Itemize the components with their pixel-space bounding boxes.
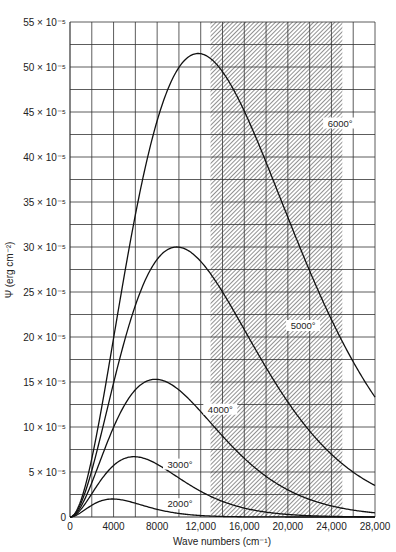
x-tick-label: 4000: [102, 521, 125, 532]
y-axis-ticks: 05 × 10⁻⁵10 × 10⁻⁵15 × 10⁻⁵20 × 10⁻⁵25 ×…: [23, 17, 66, 523]
x-tick-label: 28,000: [360, 521, 391, 532]
y-tick-label: 20 × 10⁻⁵: [23, 332, 66, 343]
x-tick-label: 8000: [146, 521, 169, 532]
x-axis-ticks: 04000800012,00016,00020,00024,00028,000: [67, 521, 391, 532]
x-axis-label: Wave numbers (cm⁻¹): [173, 536, 271, 547]
y-tick-label: 35 × 10⁻⁵: [23, 197, 66, 208]
y-axis-label: Ψ (erg cm⁻²): [4, 242, 15, 299]
curve-label-3000k: 3000°: [168, 459, 193, 470]
x-tick-label: 16,000: [229, 521, 260, 532]
y-tick-label: 25 × 10⁻⁵: [23, 287, 66, 298]
y-tick-label: 15 × 10⁻⁵: [23, 377, 66, 388]
y-tick-label: 0: [60, 512, 66, 523]
x-tick-label: 20,000: [273, 521, 304, 532]
curve-label-4000k: 4000°: [208, 404, 233, 415]
curve-label-6000k: 6000°: [328, 118, 353, 129]
x-tick-label: 0: [67, 521, 73, 532]
x-tick-label: 24,000: [316, 521, 347, 532]
curve-label-2000k: 2000°: [168, 498, 193, 509]
y-tick-label: 10 × 10⁻⁵: [23, 422, 66, 433]
y-tick-label: 40 × 10⁻⁵: [23, 152, 66, 163]
x-tick-label: 12,000: [185, 521, 216, 532]
y-tick-label: 30 × 10⁻⁵: [23, 242, 66, 253]
y-tick-label: 45 × 10⁻⁵: [23, 107, 66, 118]
y-tick-label: 5 × 10⁻⁵: [29, 467, 66, 478]
chart: 6000°5000°4000°3000°2000° 05 × 10⁻⁵10 × …: [0, 0, 396, 552]
y-tick-label: 55 × 10⁻⁵: [23, 17, 66, 28]
y-tick-label: 50 × 10⁻⁵: [23, 62, 66, 73]
curve-label-5000k: 5000°: [291, 320, 316, 331]
